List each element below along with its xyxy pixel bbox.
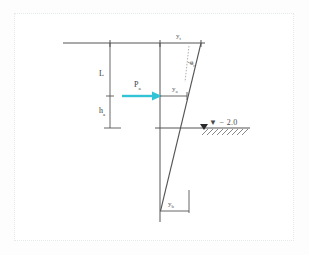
rotation-angle-label: θr	[190, 60, 195, 68]
elevation-triangle-marker	[200, 124, 208, 130]
embedment-height-label: ha	[99, 107, 105, 117]
applied-force-label: Pa	[134, 81, 141, 91]
diagram-screenshot: yt θr Pa ya L ha yb ▼ − 2.0	[0, 0, 309, 255]
ground-elevation-label: ▼ − 2.0	[209, 118, 238, 127]
diagram-canvas	[0, 0, 309, 255]
rotation-reference-line	[185, 46, 189, 82]
mid-displacement-label: ya	[172, 86, 178, 94]
bottom-displacement-label: yb	[168, 201, 174, 209]
top-displacement-label: yt	[176, 33, 181, 41]
wall-length-label: L	[99, 70, 104, 78]
ground-hatching	[202, 129, 248, 135]
